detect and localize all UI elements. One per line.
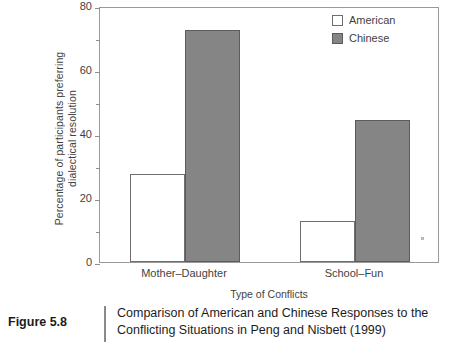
- bar-chinese-1: [355, 120, 410, 262]
- figure-5-8: Percentage of participants preferring di…: [0, 0, 449, 346]
- legend-label: American: [349, 14, 395, 26]
- x-axis-category-label: Mother–Daughter: [141, 267, 227, 279]
- caption-text: Comparison of American and Chinese Respo…: [117, 305, 449, 338]
- legend-swatch-icon: [332, 33, 343, 44]
- caption-line-1: Comparison of American and Chinese Respo…: [117, 306, 428, 320]
- y-axis-tick-label: 60: [64, 64, 92, 76]
- y-axis-tick-major: [95, 264, 100, 265]
- figure-number-label: Figure 5.8: [0, 305, 104, 331]
- caption-divider: [104, 306, 106, 342]
- figure-caption: Figure 5.8 Comparison of American and Ch…: [0, 305, 449, 342]
- x-axis-category-label: School–Fun: [325, 267, 384, 279]
- x-axis-title: Type of Conflicts: [99, 288, 439, 300]
- y-axis-tick-label: 80: [64, 0, 92, 12]
- legend-swatch-icon: [332, 15, 343, 26]
- y-axis-tick-label: 40: [64, 128, 92, 140]
- y-axis-tick-labels: 020406080: [62, 0, 92, 280]
- bar-chinese-0: [185, 30, 240, 262]
- y-axis-tick-major: [95, 8, 100, 9]
- bar-american-1: [300, 221, 355, 262]
- y-axis-tick-minor: [96, 232, 100, 233]
- y-axis-tick-minor: [96, 40, 100, 41]
- legend-row-chinese: Chinese: [332, 30, 395, 46]
- x-axis-tick-labels: Mother–DaughterSchool–Fun: [99, 267, 439, 283]
- y-axis-tick-major: [95, 200, 100, 201]
- y-axis-tick-major: [95, 136, 100, 137]
- legend-row-american: American: [332, 12, 395, 28]
- y-axis-tick-minor: [96, 104, 100, 105]
- y-axis-tick-label: 20: [64, 192, 92, 204]
- legend-label: Chinese: [349, 32, 389, 44]
- y-axis-tick-major: [95, 72, 100, 73]
- caption-line-2: Conflicting Situations in Peng and Nisbe…: [117, 323, 386, 337]
- print-speck-artifact: [421, 237, 424, 240]
- y-axis-tick-minor: [96, 168, 100, 169]
- chart-legend: AmericanChinese: [332, 12, 395, 48]
- y-axis-tick-label: 0: [64, 256, 92, 268]
- bar-american-0: [130, 174, 185, 262]
